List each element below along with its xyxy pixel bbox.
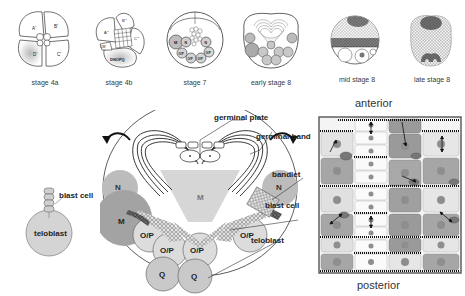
cell-label-M-center: M xyxy=(197,193,204,202)
cell-label-OP: O/P xyxy=(190,246,204,255)
cell-label-Q: Q xyxy=(159,270,165,279)
blast-cell-label: blast cell xyxy=(59,191,93,200)
stage-label: stage 4b xyxy=(80,79,158,86)
anterior-label: anterior xyxy=(355,97,392,109)
segment-cell-grid-icon xyxy=(318,116,462,274)
cell-label-C3: C''' xyxy=(134,36,139,41)
callout-bandlet: bandlet xyxy=(272,170,300,179)
early-stage-8-embryo-icon xyxy=(232,0,310,80)
stage-4a-figure: A' B' C' D' stage 4a xyxy=(6,0,84,92)
cell-label-OP: O/P xyxy=(188,57,193,61)
mid-stage-8-embryo-icon xyxy=(318,0,396,80)
early-stage-8-figure: early stage 8 xyxy=(232,0,310,92)
late-stage-8-figure: late stage 8 xyxy=(393,0,465,92)
callout-teloblast: teloblast xyxy=(251,236,284,245)
segment-panel xyxy=(318,116,462,274)
cell-label-N-left: N xyxy=(115,183,121,192)
stage-4a-embryo-icon: A' B' C' D' xyxy=(6,0,84,80)
stage-label: stage 4a xyxy=(6,79,84,86)
stage-4b-figure: A''' B''' C''' CM' DNOPQ stage 4b xyxy=(80,0,158,92)
cell-label-N-right: N xyxy=(276,183,282,192)
stage-7-figure: M N N O/P O/P O/P O/P stage 7 xyxy=(156,0,234,92)
cell-label-B: B' xyxy=(54,24,58,29)
teloblast-inset: blast cell teloblast xyxy=(0,180,110,290)
germinal-band-diagram: M N N M O/P O/P O/P O/P Q Q germinal pla… xyxy=(100,110,320,296)
cell-label-A: A' xyxy=(32,26,36,31)
callout-germinal-band: germinal band xyxy=(256,132,311,141)
cell-label-Q: Q xyxy=(191,272,197,281)
callout-germinal-plate: germinal plate xyxy=(214,113,268,122)
cell-label-OP: O/P xyxy=(179,52,184,56)
stage-4b-embryo-icon: A''' B''' C''' CM' DNOPQ xyxy=(80,0,158,80)
stage-7-embryo-icon: M N N O/P O/P O/P O/P xyxy=(156,0,234,80)
stage-label: mid stage 8 xyxy=(318,76,396,83)
cell-label-B3: B''' xyxy=(122,18,127,23)
posterior-label: posterior xyxy=(357,279,400,291)
callout-blast-cell: blast cell xyxy=(265,201,299,210)
cell-label-DNOPQ: DNOPQ xyxy=(110,57,125,62)
cell-label-OP: O/P xyxy=(206,51,211,55)
mid-stage-8-figure: mid stage 8 xyxy=(318,0,396,92)
cell-label-OP: O/P xyxy=(198,57,203,61)
stage-label: stage 7 xyxy=(156,79,234,86)
cell-label-CM: CM' xyxy=(100,45,106,49)
teloblast-label: teloblast xyxy=(34,229,67,238)
cell-label-D: D' xyxy=(33,52,37,57)
cell-label-OP: O/P xyxy=(160,246,174,255)
cell-label-C: C' xyxy=(57,52,61,57)
late-stage-8-embryo-icon xyxy=(393,0,465,80)
cell-label-M-left: M xyxy=(118,217,125,226)
stage-label: late stage 8 xyxy=(393,76,465,83)
cell-label-OP: O/P xyxy=(140,231,154,240)
cell-label-A3: A''' xyxy=(104,30,109,35)
stage-label: early stage 8 xyxy=(232,79,310,86)
